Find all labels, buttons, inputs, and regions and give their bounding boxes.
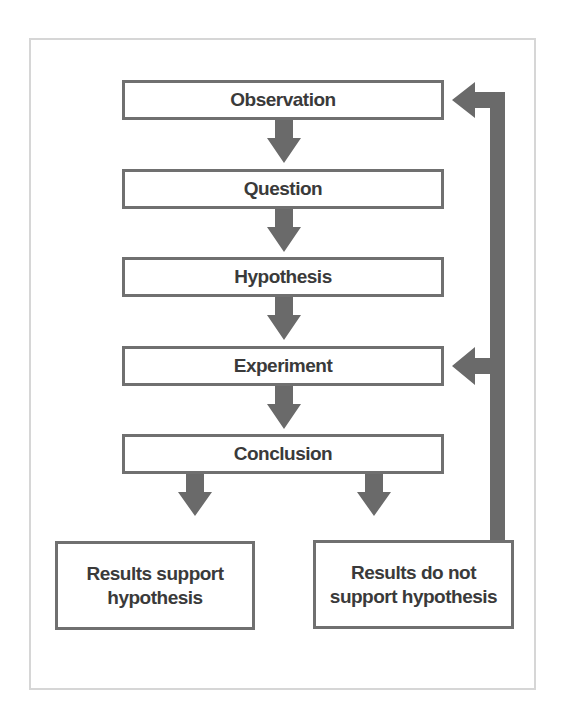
step-conclusion: Conclusion: [122, 434, 444, 474]
step-label: Hypothesis: [234, 266, 331, 288]
step-observation: Observation: [122, 80, 444, 120]
outcome-line: Results support: [86, 562, 223, 586]
outcome-support: Results support hypothesis: [55, 541, 255, 630]
step-label: Question: [244, 178, 322, 200]
step-label: Observation: [230, 89, 335, 111]
step-label: Conclusion: [234, 443, 332, 465]
outcome-line: Results do not: [330, 561, 497, 585]
outcome-line: hypothesis: [86, 586, 223, 610]
step-hypothesis: Hypothesis: [122, 257, 444, 297]
step-experiment: Experiment: [122, 346, 444, 386]
outcome-line: support hypothesis: [330, 585, 497, 609]
outcome-not-support: Results do not support hypothesis: [313, 540, 514, 629]
step-question: Question: [122, 169, 444, 209]
step-label: Experiment: [234, 355, 332, 377]
